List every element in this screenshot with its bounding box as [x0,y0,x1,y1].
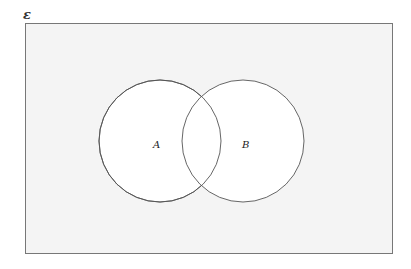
venn-diagram: ε A B [0,0,411,269]
set-b-label: B [241,139,249,150]
universe-label: ε [23,7,31,22]
set-a-label: A [152,139,160,150]
